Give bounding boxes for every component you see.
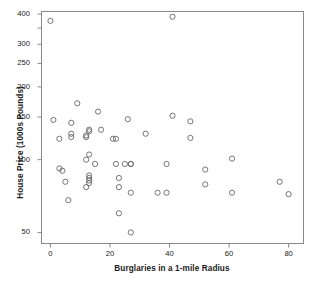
plot-canvas xyxy=(0,0,311,285)
data-point xyxy=(229,156,234,161)
x-tick-label: 0 xyxy=(38,250,62,258)
data-point xyxy=(155,190,160,195)
data-point xyxy=(128,161,133,166)
data-point xyxy=(63,179,68,184)
y-axis-title: House Price (1000s Pounds) xyxy=(14,0,28,285)
data-point xyxy=(203,167,208,172)
data-point xyxy=(75,101,80,106)
data-point xyxy=(69,131,74,136)
data-point xyxy=(69,120,74,125)
scatter-plot-figure: 50100150200250300400 020406080 House Pri… xyxy=(0,0,311,285)
data-point xyxy=(116,185,121,190)
data-point xyxy=(66,198,71,203)
data-point xyxy=(203,182,208,187)
data-point xyxy=(113,161,118,166)
data-point xyxy=(188,119,193,124)
data-point xyxy=(87,152,92,157)
y-axis-ticks xyxy=(38,14,42,232)
plot-frame xyxy=(42,12,304,244)
data-point xyxy=(128,190,133,195)
data-point xyxy=(164,161,169,166)
x-tick-label: 20 xyxy=(98,250,122,258)
data-point xyxy=(51,117,56,122)
data-point xyxy=(286,192,291,197)
data-point xyxy=(188,135,193,140)
data-point xyxy=(125,117,130,122)
data-point xyxy=(92,161,97,166)
x-axis-tick-labels: 020406080 xyxy=(0,250,311,262)
data-point xyxy=(229,190,234,195)
data-point xyxy=(122,161,127,166)
x-tick-label: 60 xyxy=(217,250,241,258)
x-axis-title: Burglaries in a 1-mile Radius xyxy=(41,264,303,273)
data-point xyxy=(57,136,62,141)
data-point xyxy=(143,131,148,136)
data-point xyxy=(95,109,100,114)
data-point xyxy=(84,157,89,162)
data-point xyxy=(48,18,53,23)
data-point xyxy=(116,175,121,180)
data-point xyxy=(277,179,282,184)
data-point xyxy=(98,127,103,132)
data-point xyxy=(170,14,175,19)
data-point xyxy=(170,113,175,118)
x-tick-label: 40 xyxy=(158,250,182,258)
data-point xyxy=(128,230,133,235)
x-axis-ticks xyxy=(50,244,288,248)
data-point xyxy=(116,211,121,216)
data-point-series xyxy=(48,14,291,235)
data-point xyxy=(164,190,169,195)
x-tick-label: 80 xyxy=(277,250,301,258)
